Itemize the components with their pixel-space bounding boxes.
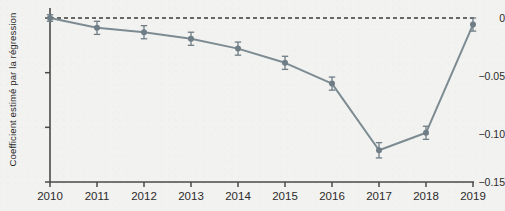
data-line <box>50 18 473 150</box>
chart-figure: Coefficient estimé par la régression 0 −… <box>0 0 505 211</box>
data-point-2015 <box>282 60 288 66</box>
data-point-2011 <box>94 25 100 31</box>
plot-area <box>0 0 505 211</box>
axis-lines <box>50 8 474 182</box>
data-point-2012 <box>141 29 147 35</box>
data-point-2013 <box>188 36 194 42</box>
data-markers <box>47 15 476 153</box>
data-point-2014 <box>235 46 241 52</box>
data-point-2016 <box>329 81 335 87</box>
data-point-2010 <box>47 15 53 21</box>
data-point-2018 <box>423 130 429 136</box>
data-point-2017 <box>376 147 382 153</box>
data-point-2019 <box>470 22 476 28</box>
error-bars <box>47 15 476 158</box>
